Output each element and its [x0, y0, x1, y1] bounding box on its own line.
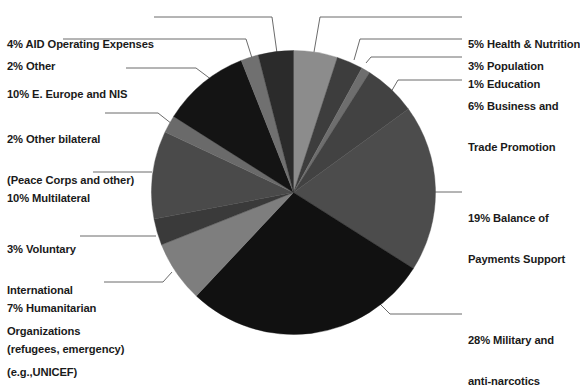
label-military: 28% Military and anti-narcotics [468, 307, 554, 389]
leader-line-education [366, 57, 462, 63]
label-line: Trade Promotion [468, 141, 559, 155]
label-line: 19% Balance of [468, 212, 565, 226]
leader-line-business-trade [391, 80, 462, 92]
label-line: Payments Support [468, 253, 565, 267]
label-line: anti-narcotics [468, 375, 554, 389]
leader-line-military [380, 304, 462, 314]
label-line: (refugees, emergency) [7, 343, 124, 357]
label-balance-payments: 19% Balance of Payments Support [468, 185, 565, 294]
label-humanitarian: 7% Humanitarian (refugees, emergency) [7, 275, 124, 384]
label-line: 10% Multilateral [7, 192, 90, 206]
label-line: 28% Military and [468, 334, 554, 348]
label-line: 3% Voluntary [7, 243, 80, 257]
label-business-trade: 6% Business and Trade Promotion [468, 73, 559, 182]
label-line: 2% Other bilateral [7, 133, 134, 147]
pie-slices-group: 5% Health & Nutrition3% Population1% Edu… [152, 51, 436, 335]
label-line: 10% E. Europe and NIS [7, 88, 127, 102]
leader-line-health-nutrition [314, 17, 462, 52]
leader-line-aid-operating-expenses [154, 17, 277, 53]
label-line: 7% Humanitarian [7, 302, 124, 316]
label-line: 6% Business and [468, 100, 559, 114]
